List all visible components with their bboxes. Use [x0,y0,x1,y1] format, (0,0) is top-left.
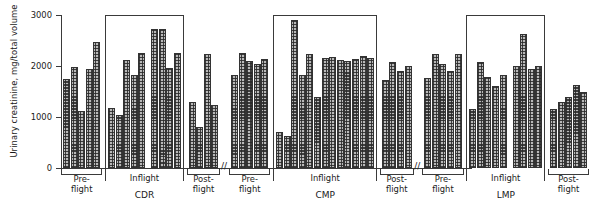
inflight-bracket-box [466,15,545,181]
phase-label-preflight: Pre-flight [226,175,274,194]
phase-label-postflight: Post-flight [545,175,593,194]
bar [261,59,268,168]
bar [432,54,439,168]
axis-break-mark: // [414,162,420,171]
phase-label-inflight: Inflight [466,174,546,184]
y-tick-mark [56,15,62,16]
y-tick-mark [56,117,62,118]
bar [558,102,565,168]
y-tick-label: 3000 [18,11,52,19]
bar [239,53,246,168]
subject-label-cmp: CMP [295,190,355,200]
inflight-bracket-box [105,15,184,181]
phase-label-inflight: Inflight [105,174,185,184]
y-tick-mark [56,66,62,67]
y-axis-title: Urinary creatinine, mg/total volume [9,1,19,161]
axis-break-mark: // [221,162,227,171]
bar [93,42,100,168]
y-tick-label: 1000 [18,113,52,121]
bar [246,61,253,168]
bar [231,75,238,168]
bar [382,80,389,168]
bar [189,102,196,168]
bar [447,71,454,168]
bar [439,64,446,168]
bar [565,97,572,168]
bar [86,69,93,168]
y-axis-line [61,15,62,168]
bar [580,92,587,169]
bar [389,62,396,168]
bar [204,54,211,168]
bar [405,66,412,168]
phase-label-inflight: Inflight [285,174,365,184]
y-tick-label: 0 [18,164,52,172]
bar [573,85,580,168]
phase-label-preflight: Pre-flight [58,175,106,194]
subject-label-cdr: CDR [115,190,175,200]
bar [63,79,70,168]
phase-label-postflight: Post-flight [373,175,421,194]
bar [71,67,78,168]
bar [254,64,261,168]
phase-label-preflight: Pre-flight [419,175,467,194]
subject-label-lmp: LMP [476,190,536,200]
phase-label-postflight: Post-flight [180,175,228,194]
bar [455,54,462,168]
bar [196,127,203,168]
bar [78,111,85,168]
bar [211,105,218,168]
bar [424,78,431,168]
inflight-bracket-box [273,15,377,181]
y-tick-label: 2000 [18,62,52,70]
bar [397,71,404,168]
bar [550,109,557,168]
